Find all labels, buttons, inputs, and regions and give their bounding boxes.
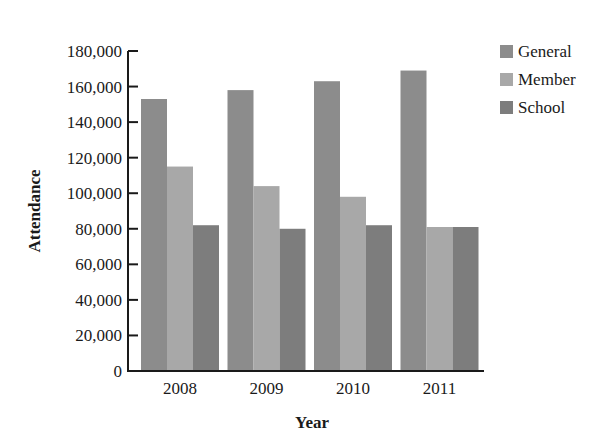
bar-general-2010	[314, 81, 340, 371]
y-tick-label: 160,000	[67, 78, 122, 97]
y-axis-title: Attendance	[25, 169, 44, 253]
bar-general-2009	[228, 90, 254, 371]
y-tick-label: 180,000	[67, 42, 122, 61]
bar-school-2009	[280, 229, 306, 371]
bar-general-2008	[141, 99, 167, 371]
attendance-bar-chart: 020,00040,00060,00080,000100,000120,0001…	[0, 0, 610, 444]
bar-school-2011	[453, 227, 479, 371]
x-axis-title: Year	[295, 413, 329, 432]
bar-school-2008	[193, 225, 219, 371]
legend: GeneralMemberSchool	[500, 42, 576, 117]
bar-general-2011	[401, 71, 427, 371]
y-tick-label: 80,000	[75, 220, 122, 239]
x-tick-label: 2011	[423, 379, 456, 398]
y-tick-label: 100,000	[67, 184, 122, 203]
legend-swatch-general	[500, 45, 513, 58]
y-tick-label: 40,000	[75, 291, 122, 310]
bar-member-2008	[167, 167, 193, 371]
bar-member-2010	[340, 197, 366, 371]
legend-label-school: School	[518, 98, 566, 117]
bar-member-2011	[427, 227, 453, 371]
y-tick-label: 20,000	[75, 326, 122, 345]
bars-layer	[141, 71, 479, 371]
bar-member-2009	[254, 186, 280, 371]
x-tick-label: 2010	[336, 379, 370, 398]
y-tick-label: 0	[114, 362, 123, 381]
y-tick-label: 140,000	[67, 113, 122, 132]
y-tick-label: 120,000	[67, 149, 122, 168]
legend-label-member: Member	[518, 70, 576, 89]
x-ticks: 2008200920102011	[163, 379, 456, 398]
legend-swatch-school	[500, 101, 513, 114]
x-tick-label: 2009	[250, 379, 284, 398]
legend-label-general: General	[518, 42, 572, 61]
y-tick-label: 60,000	[75, 255, 122, 274]
bar-school-2010	[366, 225, 392, 371]
legend-swatch-member	[500, 73, 513, 86]
chart-canvas: 020,00040,00060,00080,000100,000120,0001…	[0, 0, 610, 444]
x-tick-label: 2008	[163, 379, 197, 398]
